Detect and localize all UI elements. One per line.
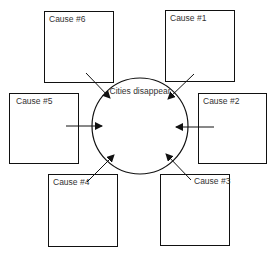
effect-label: Cities disappear [110,86,171,96]
effect-node: Cities disappear [92,78,188,174]
cause-label-3: Cause #3 [194,176,231,186]
cause-box-6: Cause #6 [45,12,114,83]
cause-box-5: Cause #5 [10,94,79,164]
cause-label-1: Cause #1 [170,13,207,23]
cause-box-3: Cause #3 [161,175,231,246]
cause-effect-diagram: Cities disappear Cause #6 Cause #1 Cause… [0,0,274,256]
cause-box-2: Cause #2 [199,94,267,164]
cause-label-4: Cause #4 [53,177,90,187]
cause-box-4: Cause #4 [49,175,118,247]
cause-box-1: Cause #1 [166,11,235,82]
cause-label-5: Cause #5 [16,96,53,106]
cause-label-2: Cause #2 [203,96,240,106]
cause-label-6: Cause #6 [49,14,86,24]
